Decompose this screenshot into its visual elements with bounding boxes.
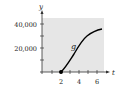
x-tick-label-6: 6 bbox=[95, 78, 99, 86]
y-tick-label-20000: 20,000 bbox=[14, 45, 37, 53]
y-axis-label: y bbox=[38, 3, 44, 11]
x-axis-label: t bbox=[112, 69, 115, 77]
x-tick-label-2: 2 bbox=[59, 78, 63, 86]
y-tick-label-40000: 40,000 bbox=[14, 21, 37, 29]
start-point-dot bbox=[59, 70, 63, 74]
chart-svg: y t 20,000 40,000 2 4 6 g bbox=[0, 0, 120, 90]
curve-label-g: g bbox=[71, 42, 76, 51]
growth-chart: y t 20,000 40,000 2 4 6 g bbox=[0, 0, 120, 90]
x-axis-arrow-icon bbox=[106, 71, 110, 74]
x-tick-label-4: 4 bbox=[77, 78, 81, 86]
